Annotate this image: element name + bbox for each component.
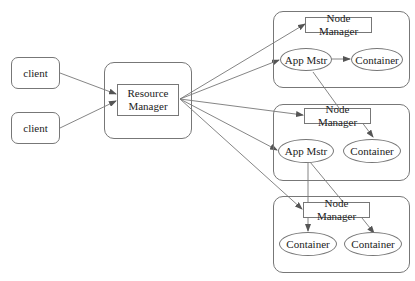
resource-manager-label-line2: Manager bbox=[128, 100, 167, 113]
client-label: client bbox=[23, 67, 47, 80]
node-manager-label: Node Manager bbox=[306, 12, 371, 37]
node-manager-label: Node Manager bbox=[304, 197, 369, 222]
resource-manager-label-line1: Resource bbox=[128, 87, 169, 100]
container-ellipse-2: Container bbox=[343, 139, 401, 163]
resource-manager-box: Resource Manager bbox=[117, 84, 179, 116]
node-manager-box-3: Node Manager bbox=[303, 202, 370, 218]
client-box-1: client bbox=[11, 57, 60, 89]
node-manager-label: Node Manager bbox=[305, 103, 370, 128]
node-manager-box-2: Node Manager bbox=[304, 108, 371, 124]
container-label: Container bbox=[351, 238, 394, 250]
client-box-2: client bbox=[11, 112, 60, 144]
app-master-label: App Mstr bbox=[285, 54, 327, 66]
app-master-ellipse-1: App Mstr bbox=[280, 48, 332, 71]
app-master-label: App Mstr bbox=[285, 145, 327, 157]
container-label: Container bbox=[355, 54, 398, 66]
container-label: Container bbox=[286, 238, 329, 250]
app-master-ellipse-2: App Mstr bbox=[278, 139, 334, 163]
container-label: Container bbox=[350, 145, 393, 157]
node-manager-box-1: Node Manager bbox=[305, 17, 372, 33]
container-ellipse-4: Container bbox=[344, 232, 402, 256]
container-ellipse-3: Container bbox=[279, 232, 337, 256]
container-ellipse-1: Container bbox=[351, 48, 403, 71]
client-label: client bbox=[23, 122, 47, 135]
